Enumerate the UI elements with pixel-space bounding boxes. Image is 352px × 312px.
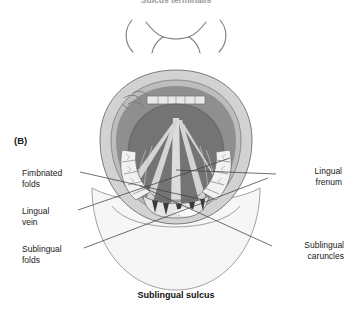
- label-lingual-vein: Lingual vein: [22, 206, 49, 227]
- top-title-text: Sulcus terminalis: [0, 0, 352, 5]
- panel-marker: (B): [14, 136, 27, 147]
- label-sublingual-folds: Sublingual folds: [22, 244, 62, 265]
- sublingual-anatomy-illustration: [0, 0, 352, 312]
- label-sublingual-caruncles: Sublingual caruncles: [304, 240, 344, 261]
- sulcus-terminalis-arch: [126, 20, 226, 53]
- label-lingual-frenum: Lingual frenum: [315, 166, 342, 187]
- top-title-clipped: Sulcus terminalis: [0, 0, 352, 7]
- upper-teeth-edge: [147, 96, 205, 104]
- figure-caption: Sublingual sulcus: [0, 290, 352, 300]
- label-fimbriated-folds: Fimbriated folds: [22, 168, 62, 189]
